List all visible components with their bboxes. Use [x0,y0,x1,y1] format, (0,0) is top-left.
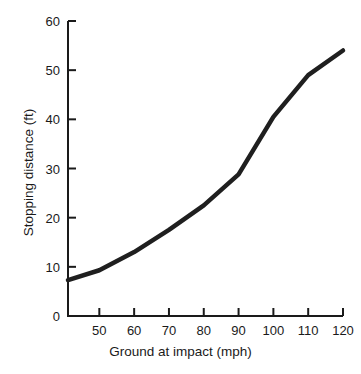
y-axis-title: Stopping distance (ft) [21,73,36,273]
x-tick-label-120: 120 [332,323,354,338]
axis-spines [68,21,343,316]
x-axis-title: Ground at impact (mph) [0,344,361,359]
x-tick-label-110: 110 [298,323,319,338]
chart-container: 60 50 40 30 20 10 0 50 60 70 80 90 100 1… [0,0,361,374]
x-axis-ticks [99,308,343,316]
x-tick-label-90: 90 [231,323,245,338]
y-tick-label-60: 60 [20,14,60,29]
x-tick-label-80: 80 [197,323,211,338]
data-series-line [68,51,343,281]
y-tick-label-0: 0 [20,309,60,324]
x-tick-label-60: 60 [127,323,141,338]
x-tick-label-50: 50 [92,323,106,338]
y-axis-ticks [68,21,76,267]
x-tick-label-100: 100 [263,323,285,338]
x-tick-label-70: 70 [162,323,176,338]
